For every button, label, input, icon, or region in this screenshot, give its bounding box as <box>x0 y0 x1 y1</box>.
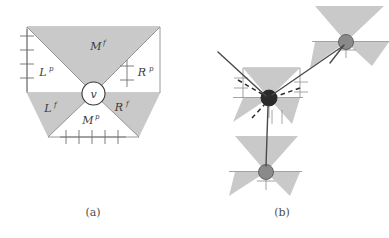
region-label-base: M <box>81 114 94 127</box>
region-label-base: L <box>43 102 51 115</box>
node-lower <box>259 165 274 180</box>
region-label-sup: p <box>49 65 54 73</box>
region-label-base: M <box>89 40 102 53</box>
region-label-sup: p <box>149 65 154 73</box>
figure-svg: v M f L p R p L f M p <box>0 0 389 238</box>
region-label-base: R <box>137 66 146 79</box>
region-label-base: R <box>114 101 123 114</box>
vertex-label: v <box>90 88 97 101</box>
panel-a-caption: (a) <box>85 206 100 219</box>
region-label-base: L <box>38 66 46 79</box>
panel-b-caption: (b) <box>274 206 290 219</box>
figure-root: v M f L p R p L f M p <box>0 0 389 238</box>
region-label-sup: p <box>95 113 100 121</box>
